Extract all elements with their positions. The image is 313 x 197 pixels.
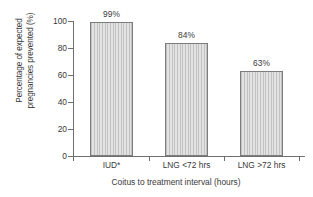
- bar: [90, 22, 133, 156]
- y-axis-tick: [68, 48, 73, 49]
- y-axis-tick: [68, 129, 73, 130]
- y-axis-tick-label: 0: [41, 152, 67, 160]
- x-axis-category-label: LNG >72 hrs: [217, 161, 307, 170]
- y-axis-tick: [68, 75, 73, 76]
- y-axis-tick-label: 100: [41, 17, 67, 25]
- bar-value-label: 63%: [232, 59, 292, 67]
- bar-value-label: 99%: [82, 10, 142, 18]
- x-axis-title: Coitus to treatment interval (hours): [56, 178, 296, 187]
- y-axis-tick-label: 60: [41, 71, 67, 79]
- bar: [165, 43, 208, 156]
- x-axis-line: [73, 156, 305, 157]
- y-axis-tick: [68, 102, 73, 103]
- y-axis-title-line-1: Percentage of expected: [15, 0, 26, 134]
- y-axis-tick-label: 20: [41, 125, 67, 133]
- y-axis-tick: [68, 21, 73, 22]
- y-axis-tick-label: 40: [41, 98, 67, 106]
- bar-value-label: 84%: [157, 31, 217, 39]
- bar: [240, 71, 283, 156]
- y-axis-tick-label: 80: [41, 44, 67, 52]
- y-axis-title-line-2: pregnancies prevented (%): [25, 0, 36, 134]
- bar-chart: Percentage of expected pregnancies preve…: [0, 0, 313, 197]
- y-axis-line: [73, 21, 74, 157]
- y-axis-title: Percentage of expected pregnancies preve…: [15, 0, 36, 134]
